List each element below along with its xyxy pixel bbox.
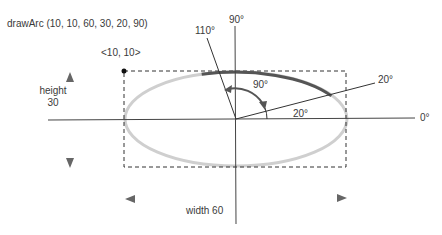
angle-label-20-arc: 20°	[293, 109, 308, 119]
origin-label: <10, 10>	[101, 48, 140, 58]
width-label: width 60	[186, 206, 223, 216]
angle-label-110: 110°	[195, 26, 215, 36]
y-axis	[235, 26, 236, 224]
x-axis	[48, 118, 415, 120]
height-arrowhead-down	[66, 158, 74, 168]
height-label: height 30	[35, 85, 71, 109]
sweep-arc-90	[228, 88, 263, 104]
angle-label-0: 0°	[420, 113, 430, 123]
arc-diagram	[0, 0, 442, 235]
sweep-label-90: 90°	[253, 80, 268, 90]
width-arrowhead-right	[337, 194, 347, 202]
angle-label-90: 90°	[229, 15, 244, 25]
height-label-word: height	[39, 85, 66, 96]
angle-label-20-line: 20°	[378, 75, 393, 85]
height-label-value: 30	[47, 97, 58, 108]
width-arrowhead-left	[125, 195, 135, 203]
angle-arc-20	[265, 108, 267, 119]
sweep-arrowhead-start	[259, 101, 267, 110]
title-label: drawArc (10, 10, 60, 30, 20, 90)	[7, 19, 148, 29]
height-arrowhead-up	[66, 72, 74, 82]
line-110deg	[207, 38, 236, 119]
origin-point	[122, 69, 127, 74]
